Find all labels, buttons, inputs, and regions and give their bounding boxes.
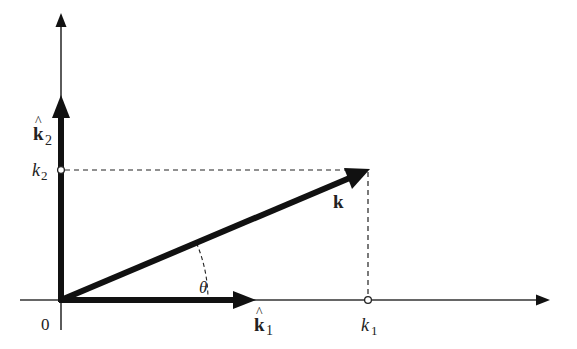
svg-text:1: 1 <box>266 323 273 338</box>
vector-diagram: 0 k ^ 2 k 2 k θ k ^ 1 k 1 <box>0 0 577 349</box>
x-axis-arrowhead-icon <box>536 295 550 306</box>
k1-hat-arrowhead-icon <box>233 291 256 309</box>
k1-component-label: k 1 <box>361 315 378 338</box>
origin-label: 0 <box>41 315 50 334</box>
k2-component-label: k 2 <box>32 160 48 183</box>
k2-hat-label: k ^ 2 <box>33 114 52 148</box>
svg-text:k: k <box>32 160 41 180</box>
svg-text:2: 2 <box>45 133 52 148</box>
svg-text:k: k <box>361 315 370 335</box>
k2-point <box>58 167 65 174</box>
k1-hat-vector <box>59 291 256 309</box>
theta-label: θ <box>199 278 207 297</box>
k2-hat-vector <box>52 95 70 302</box>
svg-text:2: 2 <box>41 168 48 183</box>
svg-text:1: 1 <box>371 323 378 338</box>
k2-hat-arrowhead-icon <box>52 95 70 118</box>
svg-text:^: ^ <box>256 305 263 320</box>
k-vector <box>61 168 370 300</box>
k1-point <box>365 297 372 304</box>
k1-hat-label: k ^ 1 <box>254 305 273 338</box>
svg-text:^: ^ <box>35 114 42 129</box>
y-axis-arrowhead-icon <box>56 13 67 27</box>
k-vector-label: k <box>333 191 344 212</box>
